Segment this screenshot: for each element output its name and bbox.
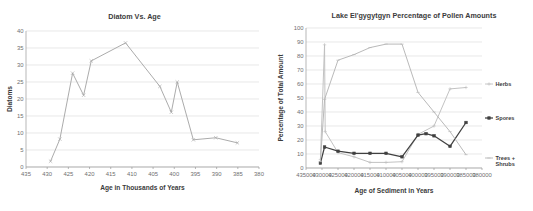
x-axis-title: Age of Sediment in Years [354,187,433,195]
x-axis-tick-label: 420 [85,171,96,177]
data-point-marker [401,156,404,159]
data-point-marker [448,87,451,90]
y-axis-tick-label: 60 [297,81,304,87]
legend-entry[interactable]: Spores [485,115,514,121]
data-point-marker [464,86,467,89]
diatom-vs-age-chart-panel: Diatom Vs. Age05101520253035404354304254… [0,0,270,211]
y-axis-tick-label: 0 [20,164,24,170]
series-trees-shrubs [319,44,468,162]
series-line [51,43,238,161]
data-point-marker [124,41,127,44]
data-point-marker [368,161,371,164]
series-diatoms [49,41,239,163]
y-axis-tick-label: 10 [297,151,304,157]
diatom-chart-svg: Diatom Vs. Age05101520253035404354304254… [0,0,270,211]
x-axis-tick-label: 435 [21,171,32,177]
chart-title: Diatom Vs. Age [108,12,160,21]
data-point-marker [432,124,435,127]
y-axis-title: Percentage of Total Amount [277,54,285,142]
series-line [320,45,466,163]
legend-label: Herbs [496,81,512,87]
y-axis-tick-label: 90 [297,39,304,45]
data-point-marker [369,152,372,155]
data-point-marker [384,161,387,164]
y-axis-tick-label: 70 [297,67,304,73]
data-point-marker [323,43,326,46]
data-point-marker [433,135,436,138]
y-axis-tick-label: 30 [17,62,24,68]
data-point-marker [337,150,340,153]
gridlines [306,28,482,168]
y-axis-tick-label: 20 [297,137,304,143]
x-axis-tick-label: 400 [169,171,180,177]
series-herbs [319,43,468,164]
y-axis-tick-label: 15 [17,113,24,119]
y-axis-tick-label: 40 [17,28,24,34]
y-axis-tick-label: 80 [297,53,304,59]
series-spores [319,121,467,164]
data-point-marker [417,134,420,137]
x-axis-tick-label: 395 [191,171,202,177]
y-axis-tick-label: 35 [17,45,24,51]
y-axis-tick-label: 10 [17,130,24,136]
y-axis-tick-label: 20 [17,96,24,102]
x-axis-tick-label: 385 [233,171,244,177]
data-point-marker [352,155,355,158]
y-axis-tick-label: 0 [300,165,304,171]
y-axis-tick-label: 25 [17,79,24,85]
data-point-marker [385,152,388,155]
y-axis-tick-label: 50 [297,95,304,101]
charts-page: Diatom Vs. Age05101520253035404354304254… [0,0,533,211]
data-point-marker [465,121,468,124]
pollen-chart-svg: Lake El'gygytgyn Percentage of Pollen Am… [270,0,533,211]
x-axis-tick-label: 380000 [472,172,492,178]
legend-label: Spores [496,115,515,121]
series-line [320,123,466,164]
x-axis-tick-label: 405 [148,171,159,177]
chart-title: Lake El'gygytgyn Percentage of Pollen Am… [332,11,497,20]
x-axis-tick-label: 415 [106,171,117,177]
data-point-marker [425,132,428,135]
data-point-marker [158,85,161,88]
legend-entry[interactable]: Herbs [485,81,511,87]
x-axis-tick-label: 380 [254,171,265,177]
y-axis-tick-label: 5 [20,147,24,153]
data-point-marker [323,146,326,149]
y-axis-tick-label: 100 [294,25,305,31]
y-axis-tick-label: 40 [297,109,304,115]
x-axis-title: Age in Thousands of Years [100,184,185,192]
legend-label: Shrubs [496,161,515,167]
data-point-marker [353,152,356,155]
x-axis-tick-label: 410 [127,171,138,177]
y-axis-title: Diatoms [6,86,13,112]
x-axis-tick-label: 430 [42,171,53,177]
gridlines [26,31,259,167]
y-axis-tick-label: 30 [297,123,304,129]
legend-entry[interactable]: Trees +Shrubs [485,155,516,167]
data-point-marker [449,145,452,148]
x-axis-tick-label: 390 [212,171,223,177]
lake-elgygytgyn-pollen-chart-panel: Lake El'gygytgyn Percentage of Pollen Am… [270,0,533,211]
data-point-marker [319,162,322,165]
x-axis-tick-label: 425 [63,171,74,177]
